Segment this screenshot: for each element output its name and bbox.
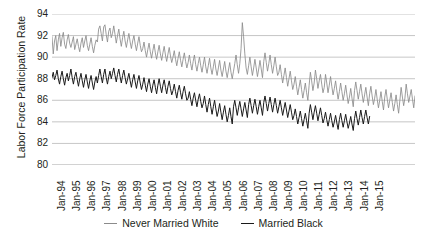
y-tick-label: 86 — [26, 95, 48, 105]
x-tick-label: Jan-96 — [86, 165, 97, 211]
x-tick-label: Jan-98 — [117, 165, 128, 211]
plot-area — [52, 14, 415, 165]
x-tick-label: Jan-02 — [177, 165, 188, 211]
x-tick-label: Jan-94 — [56, 165, 67, 211]
series-line — [52, 23, 415, 114]
x-tick-label: Jan-14 — [359, 165, 370, 211]
y-tick-label: 80 — [26, 160, 48, 170]
x-tick-label: Jan-10 — [298, 165, 309, 211]
y-tick-label: 82 — [26, 138, 48, 148]
x-tick-label: Jan-07 — [253, 165, 264, 211]
y-tick-label: 88 — [26, 74, 48, 84]
chart-legend: Never Married WhiteMarried Black — [0, 214, 427, 232]
x-tick-label: Jan-01 — [162, 165, 173, 211]
legend-line-swatch-icon — [241, 223, 254, 224]
y-axis-tick-labels: 9492908886848280 — [26, 0, 48, 237]
series-line — [52, 68, 370, 131]
x-tick-label: Jan-12 — [328, 165, 339, 211]
y-tick-label: 94 — [26, 9, 48, 19]
x-axis-tick-labels: Jan-94Jan-95Jan-96Jan-97Jan-98Jan-99Jan-… — [52, 165, 415, 215]
series-lines — [52, 23, 415, 131]
x-tick-label: Jan-97 — [101, 165, 112, 211]
x-tick-label: Jan-06 — [238, 165, 249, 211]
x-tick-label: Jan-11 — [313, 165, 324, 211]
y-tick-label: 92 — [26, 31, 48, 41]
legend-entry: Never Married White — [104, 217, 218, 229]
x-tick-label: Jan-13 — [343, 165, 354, 211]
x-tick-label: Jan-08 — [268, 165, 279, 211]
plot-svg — [52, 14, 415, 165]
legend-label: Married Black — [259, 217, 323, 229]
legend-label: Never Married White — [122, 217, 218, 229]
legend-line-swatch-icon — [104, 223, 117, 224]
line-chart: Labor Force Participation Rate 949290888… — [0, 0, 427, 237]
x-tick-label: Jan-15 — [374, 165, 385, 211]
y-tick-label: 90 — [26, 52, 48, 62]
x-tick-label: Jan-95 — [71, 165, 82, 211]
y-tick-label: 84 — [26, 117, 48, 127]
legend-entry: Married Black — [241, 217, 323, 229]
x-tick-label: Jan-05 — [222, 165, 233, 211]
x-tick-label: Jan-00 — [147, 165, 158, 211]
x-tick-label: Jan-03 — [192, 165, 203, 211]
x-tick-label: Jan-99 — [132, 165, 143, 211]
x-tick-label: Jan-04 — [207, 165, 218, 211]
x-tick-label: Jan-09 — [283, 165, 294, 211]
